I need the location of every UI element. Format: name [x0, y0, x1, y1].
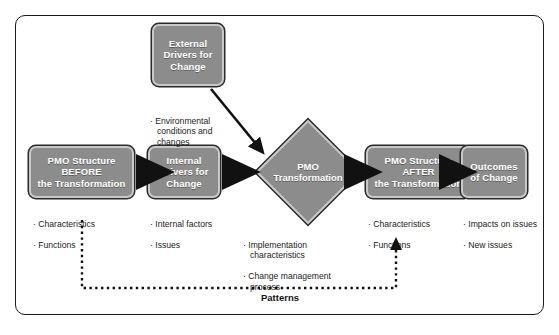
- patterns-caption: Patterns: [190, 292, 370, 303]
- bullet-item: Characteristics: [33, 219, 128, 230]
- bullet-item: New issues: [463, 240, 553, 251]
- node-pmo-before[interactable]: PMO Structure BEFORE the Transformation: [29, 146, 134, 198]
- bullet-item: Impacts on issues: [463, 219, 553, 230]
- bullet-item: Functions: [368, 240, 463, 251]
- node-external-drivers-label: External Drivers for Change: [160, 38, 215, 73]
- bullet-item: Implementation characteristics: [243, 240, 358, 261]
- bullets-outcomes: Impacts on issues New issues: [463, 208, 553, 261]
- bullet-item: Internal factors: [150, 219, 245, 230]
- node-pmo-after[interactable]: PMO Structure AFTER the Transformation: [366, 146, 471, 198]
- bullet-item: Environmental conditions and changes: [150, 116, 225, 148]
- bullets-external-drivers: Environmental conditions and changes: [150, 105, 225, 158]
- node-pmo-before-label: PMO Structure BEFORE the Transformation: [35, 155, 129, 190]
- bullets-pmo-before: Characteristics Functions: [33, 208, 128, 261]
- node-outcomes-label: Outcomes of Change: [467, 161, 520, 184]
- diagram-canvas: External Drivers for Change PMO Structur…: [0, 0, 559, 335]
- diamond-shape: [256, 120, 361, 225]
- bullets-internal-drivers: Internal factors Issues: [150, 208, 245, 261]
- node-external-drivers[interactable]: External Drivers for Change: [152, 24, 224, 86]
- bullets-pmo-after: Characteristics Functions: [368, 208, 463, 261]
- bullet-item: Issues: [150, 240, 245, 251]
- bullet-item: Functions: [33, 240, 128, 251]
- node-outcomes[interactable]: Outcomes of Change: [461, 146, 527, 198]
- node-pmo-after-label: PMO Structure AFTER the Transformation: [372, 155, 466, 190]
- node-pmo-transformation[interactable]: PMO Transformation: [253, 120, 363, 224]
- bullet-item: Change management process: [243, 271, 358, 292]
- bullet-item: Characteristics: [368, 219, 463, 230]
- node-internal-drivers-label: Internal Drivers for Change: [156, 155, 211, 190]
